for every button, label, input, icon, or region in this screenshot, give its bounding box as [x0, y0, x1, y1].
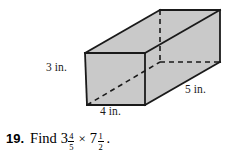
dimension-label-height: 3 in.	[46, 62, 67, 74]
first-whole-number: 3	[61, 131, 68, 146]
problem-verb: Find	[30, 130, 57, 146]
second-numerator: 1	[98, 132, 103, 141]
page: 3 in. 4 in. 5 in. 19. Find 3 4 5 × 7 1 2…	[0, 0, 236, 157]
first-fraction: 4 5	[68, 132, 74, 151]
prism-front-face	[85, 53, 145, 105]
first-mixed-number: 3 4 5	[61, 130, 75, 150]
dimension-label-width: 4 in.	[100, 106, 121, 118]
second-whole-number: 7	[90, 131, 97, 146]
problem-statement: 19. Find 3 4 5 × 7 1 2 .	[6, 130, 236, 157]
problem-number: 19.	[6, 130, 24, 145]
multiplication-operator: ×	[78, 130, 85, 145]
trailing-period: .	[107, 130, 111, 146]
prism-figure: 3 in. 4 in. 5 in.	[0, 0, 236, 124]
first-numerator: 4	[69, 132, 74, 141]
second-denominator: 2	[98, 143, 103, 152]
dimension-label-depth: 5 in.	[185, 84, 206, 96]
second-mixed-number: 7 1 2	[90, 130, 104, 150]
first-denominator: 5	[69, 143, 74, 152]
second-fraction: 1 2	[98, 132, 104, 151]
